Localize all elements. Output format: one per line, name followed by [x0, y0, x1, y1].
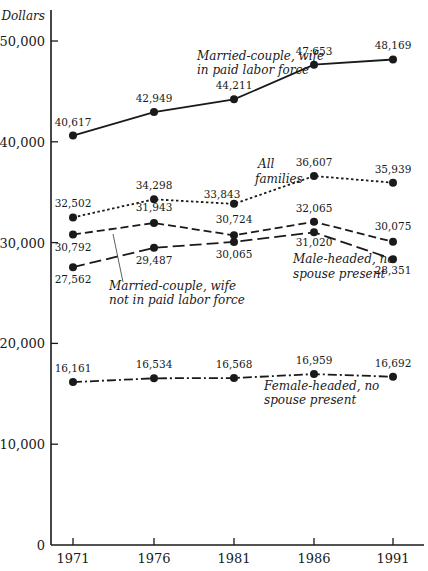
svg-text:Female-headed, no: Female-headed, no — [263, 379, 379, 393]
data-point — [230, 95, 238, 103]
data-label: 30,065 — [216, 248, 253, 260]
data-point — [69, 231, 77, 239]
annotation-female-headed: Female-headed, no spouse present — [263, 379, 379, 407]
x-ticks: 19711976198119861991 — [56, 538, 409, 566]
data-label: 40,617 — [55, 116, 92, 128]
data-point — [69, 378, 77, 386]
series-group: 40,61742,94944,21147,65348,16932,50234,2… — [55, 39, 412, 386]
data-point — [150, 374, 158, 382]
annotation-wife-not-in-labor-force: Married-couple, wife not in paid labor f… — [108, 234, 245, 307]
x-tick-label: 1981 — [217, 551, 250, 566]
y-tick-label: 0 — [37, 538, 45, 553]
data-label: 32,502 — [55, 197, 92, 209]
x-tick-label: 1971 — [56, 551, 89, 566]
data-point — [230, 238, 238, 246]
data-label: 30,724 — [216, 213, 253, 225]
y-tick-label: 50,000 — [0, 34, 45, 49]
data-label: 31,943 — [136, 201, 173, 213]
data-label: 36,607 — [296, 156, 333, 168]
data-point — [150, 219, 158, 227]
x-tick-label: 1976 — [137, 551, 170, 566]
annotation-wife-in-labor-force: Married-couple, wife in paid labor force — [196, 49, 324, 77]
data-point — [69, 263, 77, 271]
data-point — [389, 179, 397, 187]
data-point — [69, 213, 77, 221]
data-label: 30,792 — [55, 241, 92, 253]
data-label: 33,843 — [204, 188, 241, 200]
data-point — [310, 370, 318, 378]
y-tick-label: 40,000 — [0, 135, 45, 150]
data-label: 29,487 — [136, 254, 173, 266]
data-point — [150, 244, 158, 252]
svg-text:Married-couple, wife: Married-couple, wife — [108, 279, 236, 293]
data-label: 35,939 — [375, 163, 412, 175]
svg-text:Male-headed, no: Male-headed, no — [292, 252, 394, 266]
y-tick-label: 10,000 — [0, 437, 45, 452]
series-all-families: 32,50234,29833,84336,60735,939 — [55, 156, 412, 221]
y-tick-label: 30,000 — [0, 236, 45, 251]
data-label: 30,075 — [375, 220, 412, 232]
y-axis-title: Dollars — [0, 9, 45, 23]
data-label: 16,959 — [296, 354, 333, 366]
svg-text:families: families — [254, 172, 303, 186]
data-point — [230, 374, 238, 382]
svg-text:spouse present: spouse present — [293, 267, 385, 281]
income-line-chart: Dollars 010,00020,00030,00040,00050,000 … — [0, 0, 428, 571]
data-point — [310, 218, 318, 226]
data-label: 42,949 — [136, 92, 173, 104]
data-label: 16,534 — [136, 358, 173, 370]
data-point — [150, 108, 158, 116]
svg-text:Married-couple, wife: Married-couple, wife — [196, 49, 324, 63]
data-label: 31,020 — [296, 236, 333, 248]
annotation-male-headed: Male-headed, no spouse present — [292, 252, 394, 281]
x-tick-label: 1991 — [376, 551, 409, 566]
data-label: 16,568 — [216, 358, 253, 370]
data-label: 34,298 — [136, 179, 173, 191]
data-point — [69, 132, 77, 140]
x-tick-label: 1986 — [297, 551, 330, 566]
svg-text:not in paid labor force: not in paid labor force — [109, 293, 245, 307]
data-point — [310, 228, 318, 236]
data-label: 32,065 — [296, 202, 333, 214]
data-label: 16,692 — [375, 357, 412, 369]
data-point — [230, 200, 238, 208]
data-label: 16,161 — [55, 362, 92, 374]
y-tick-label: 20,000 — [0, 336, 45, 351]
data-point — [310, 172, 318, 180]
data-label: 27,562 — [55, 273, 92, 285]
data-label: 48,169 — [375, 39, 412, 51]
y-ticks: 010,00020,00030,00040,00050,000 — [0, 34, 58, 553]
svg-text:All: All — [257, 157, 275, 171]
data-point — [389, 373, 397, 381]
svg-text:spouse present: spouse present — [264, 393, 356, 407]
svg-text:in paid labor force: in paid labor force — [197, 63, 309, 77]
data-label: 44,211 — [216, 79, 253, 91]
data-point — [389, 238, 397, 246]
data-point — [389, 55, 397, 63]
